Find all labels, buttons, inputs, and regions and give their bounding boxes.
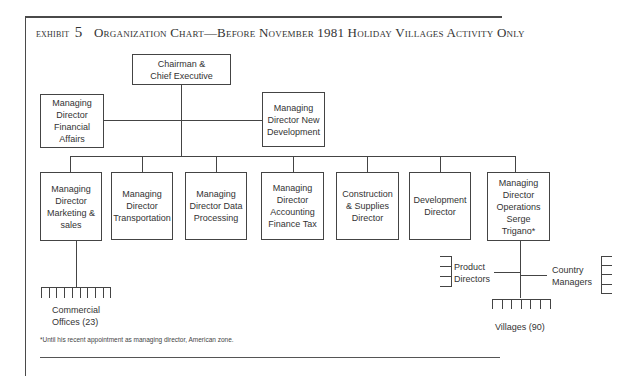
marketing-sales-label: Managing Director Marketing & sales [47, 183, 95, 231]
transportation-label: Managing Director Transportation [113, 188, 171, 224]
comb-tick [521, 299, 522, 309]
connector-drop-7 [515, 156, 516, 172]
comb-tick [492, 299, 493, 309]
country-managers-tick [601, 293, 612, 294]
financial-affairs-box: Managing Director Financial Affairs [40, 94, 104, 148]
exhibit-label: exhibit [36, 27, 69, 39]
comb-tick [550, 299, 551, 309]
accounting-finance-tax-box: Managing Director Accounting Finance Tax [261, 172, 324, 240]
product-directors-tick [440, 256, 451, 257]
product-directors-tick [440, 266, 451, 267]
financial-affairs-label: Managing Director Financial Affairs [52, 97, 92, 145]
country-managers-tick [601, 274, 612, 275]
comb-tick [95, 287, 96, 298]
development-director-box: Development Director [409, 172, 471, 240]
connector-operations-down [520, 241, 521, 298]
product-directors-label: Product Directors [454, 261, 490, 285]
top-rule [26, 16, 502, 18]
connector-product-directors [494, 272, 520, 273]
connector-drop-4 [293, 156, 294, 172]
comb-tick [49, 287, 50, 298]
accounting-finance-tax-label: Managing Director Accounting Finance Tax [268, 182, 316, 230]
product-directors-stack [451, 256, 452, 287]
bottom-rule [40, 357, 500, 358]
comb-tick [502, 299, 503, 309]
comb-tick [103, 287, 104, 298]
operations-label: Managing Director Operations Serge Triga… [496, 177, 540, 237]
connector-drop-2 [142, 156, 143, 172]
country-managers-stack [601, 256, 602, 294]
commercial-offices-label: Commercial Offices (23) [52, 304, 100, 328]
new-development-box: Managing Director New Development [262, 92, 325, 147]
product-directors-tick [440, 276, 451, 277]
connector-drop-6 [440, 156, 441, 172]
data-processing-box: Managing Director Data Processing [185, 172, 247, 240]
comb-tick [540, 299, 541, 309]
country-managers-tick [601, 256, 612, 257]
exhibit-number: 5 [75, 24, 83, 40]
comb-tick [41, 287, 42, 298]
construction-supplies-box: Construction & Supplies Director [336, 172, 399, 240]
country-managers-label: Country Managers [552, 264, 592, 288]
connector-staff-line [104, 120, 262, 121]
chart-title: Organization Chart—Before November 1981 … [94, 25, 525, 40]
operations-box: Managing Director Operations Serge Triga… [487, 172, 550, 241]
construction-supplies-label: Construction & Supplies Director [342, 188, 393, 224]
comb-tick [80, 287, 81, 298]
comb-tick [511, 299, 512, 309]
chairman-label: Chairman & Chief Executive [150, 58, 213, 82]
marketing-sales-box: Managing Director Marketing & sales [40, 172, 102, 241]
comb-tick [64, 287, 65, 298]
connector-drop-5 [367, 156, 368, 172]
country-managers-tick [601, 284, 612, 285]
chairman-box: Chairman & Chief Executive [132, 54, 231, 85]
left-rule [25, 16, 26, 376]
transportation-box: Managing Director Transportation [111, 172, 173, 240]
comb-tick [56, 287, 57, 298]
connector-drop-1 [70, 156, 71, 172]
country-managers-tick [601, 265, 612, 266]
comb-tick [72, 287, 73, 298]
comb-tick [530, 299, 531, 309]
comb-tick [87, 287, 88, 298]
new-development-label: Managing Director New Development [267, 102, 320, 138]
comb-tick [110, 287, 111, 298]
product-directors-tick [440, 286, 451, 287]
villages-label: Villages (90) [495, 321, 545, 333]
development-director-label: Development Director [413, 194, 466, 218]
exhibit-title: exhibit 5 Organization Chart—Before Nove… [36, 24, 525, 41]
connector-marketing-down [76, 241, 77, 287]
footnote: *Until his recent appointment as managin… [40, 336, 234, 343]
connector-drop-3 [216, 156, 217, 172]
data-processing-label: Managing Director Data Processing [189, 188, 242, 224]
commercial-offices-comb [41, 287, 111, 288]
connector-country-managers [520, 275, 547, 276]
